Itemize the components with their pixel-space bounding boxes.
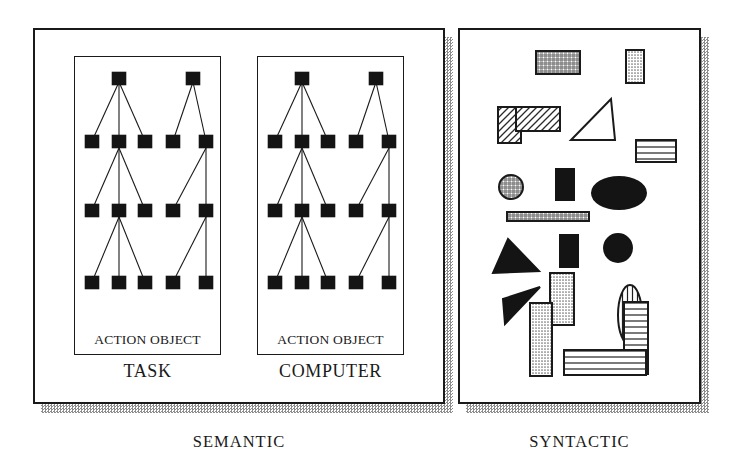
computer-caption: COMPUTER [257,361,404,382]
syntactic-panel [458,28,701,404]
black-ellipse [592,177,646,209]
task-tree [75,57,222,319]
crosshatch-bar [507,212,589,221]
black-circle [604,234,632,262]
semantic-caption: SEMANTIC [33,432,445,452]
hatch-rect-wide [516,107,560,131]
syntactic-caption: SYNTACTIC [458,432,701,452]
computer-tree [258,57,405,319]
stipple-rect-tall2 [530,303,552,376]
stipple-rect-tall [550,273,574,325]
hlines-rect-right [636,140,676,162]
computer-subpanel: ACTION OBJECT [257,56,404,355]
black-rect-lower [560,235,578,267]
triangle-outline [571,99,615,140]
black-rect-upper [556,169,574,200]
semantic-panel: ACTION OBJECT TASK [33,28,445,404]
task-action-object-label: ACTION OBJECT [75,332,220,348]
stipple-rect-topright [626,50,644,83]
task-subpanel: ACTION OBJECT [74,56,221,355]
hlines-rect-wide [564,350,646,375]
syntactic-shapes [460,30,699,402]
grid-rect-top [536,51,580,74]
crosshatch-circle [499,175,523,199]
task-caption: TASK [74,361,221,382]
computer-action-object-label: ACTION OBJECT [258,332,403,348]
black-triangle [493,239,539,273]
